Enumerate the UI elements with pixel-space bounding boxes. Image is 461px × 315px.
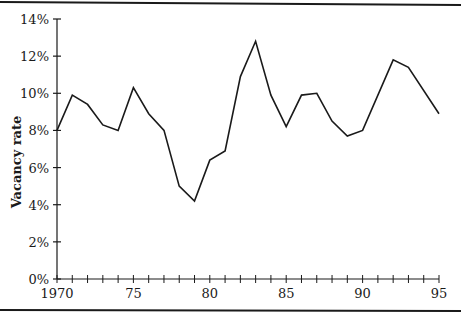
y-axis-title: Vacancy rate <box>9 116 24 210</box>
y-tick-label: 12% <box>20 49 49 64</box>
y-tick-label: 0% <box>28 272 49 287</box>
y-axis: 0%2%4%6%8%10%12%14% <box>20 12 61 287</box>
vacancy-rate-line <box>57 41 439 201</box>
top-border <box>0 2 461 5</box>
y-tick-label: 4% <box>28 198 49 213</box>
y-tick-label: 2% <box>28 235 49 250</box>
x-tick-label: 80 <box>202 286 219 301</box>
x-axis: 19707580859095 <box>40 275 447 301</box>
bottom-border <box>0 310 461 311</box>
x-tick-label: 85 <box>278 286 295 301</box>
x-tick-label: 95 <box>431 286 448 301</box>
x-tick-label: 1970 <box>40 286 73 301</box>
y-tick-label: 6% <box>28 161 49 176</box>
x-tick-label: 75 <box>125 286 142 301</box>
y-tick-label: 8% <box>28 123 49 138</box>
vacancy-rate-chart: 0%2%4%6%8%10%12%14% 19707580859095 Vacan… <box>0 0 461 315</box>
y-tick-label: 10% <box>20 86 49 101</box>
chart-canvas: 0%2%4%6%8%10%12%14% 19707580859095 Vacan… <box>0 0 461 315</box>
y-tick-label: 14% <box>20 12 49 27</box>
x-tick-label: 90 <box>354 286 371 301</box>
